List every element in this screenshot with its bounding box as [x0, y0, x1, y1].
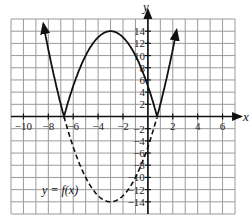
curves	[43, 24, 176, 202]
y-tick-label: −10	[128, 171, 146, 183]
x-tick-label: 2	[170, 120, 176, 132]
function-graph: −10−8−6−4−22461412108642−2−4−6−8−10−12−1…	[0, 0, 252, 222]
y-tick-label: −6	[133, 147, 145, 159]
y-tick-label: −14	[128, 196, 146, 208]
x-axis-label: x	[242, 109, 249, 124]
y-axis-label: y	[141, 0, 149, 14]
y-tick-label: 2	[139, 98, 145, 110]
x-tick-label: 4	[195, 120, 201, 132]
y-tick-label: 4	[139, 86, 145, 98]
function-label: y = f(x)	[41, 183, 78, 197]
solid-curve-abs-f	[43, 24, 176, 116]
x-tick-label: −2	[117, 120, 129, 132]
x-tick-label: −8	[42, 120, 54, 132]
y-tick-label: −4	[133, 135, 145, 147]
x-tick-label: 6	[220, 120, 226, 132]
y-tick-label: 14	[134, 25, 146, 37]
y-tick-label: −2	[133, 123, 145, 135]
y-tick-label: 12	[134, 37, 145, 49]
x-tick-label: −10	[15, 120, 33, 132]
x-tick-label: −4	[92, 120, 104, 132]
x-tick-label: −6	[67, 120, 79, 132]
